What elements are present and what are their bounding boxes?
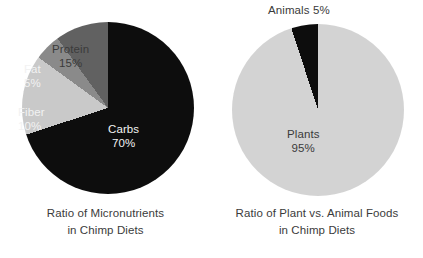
caption-line-1: Ratio of Plant vs. Animal Foods: [211, 205, 423, 222]
slice-name-plants: Plants: [287, 128, 320, 140]
slice-value-carbs: 70%: [108, 137, 139, 151]
slice-value-plants: 95%: [287, 142, 320, 156]
plant-animal-chart-caption: Ratio of Plant vs. Animal Foods in Chimp…: [211, 205, 423, 238]
pie-slice-label-protein: Protein 15%: [52, 43, 89, 70]
micronutrients-chart-panel: Carbs 70% Protein 15% Fat 5% Fiber 10% R…: [0, 0, 211, 258]
pie-slice-label-carbs: Carbs 70%: [108, 123, 139, 150]
slice-name-fiber: Fiber: [18, 106, 45, 118]
pie-slice-label-fat: Fat 5%: [24, 63, 41, 90]
slice-name-carbs: Carbs: [108, 123, 139, 135]
plant-animal-pie: [232, 24, 404, 196]
caption-line-1: Ratio of Micronutrients: [0, 205, 211, 222]
caption-line-2: in Chimp Diets: [0, 222, 211, 239]
slice-name-fat: Fat: [24, 63, 41, 75]
slice-value-protein: 15%: [52, 57, 89, 71]
slice-name-protein: Protein: [52, 43, 89, 55]
slice-text-animals: Animals 5%: [268, 4, 330, 16]
micronutrients-pie: [22, 22, 194, 194]
micronutrients-chart-caption: Ratio of Micronutrients in Chimp Diets: [0, 205, 211, 238]
caption-line-2: in Chimp Diets: [211, 222, 423, 239]
plant-animal-chart-panel: Animals 5% Plants 95% Ratio of Plant vs.…: [211, 0, 423, 258]
pie-chart-figure: Carbs 70% Protein 15% Fat 5% Fiber 10% R…: [0, 0, 423, 258]
slice-value-fat: 5%: [24, 77, 41, 91]
pie-slice-label-fiber: Fiber 10%: [18, 106, 45, 133]
pie-slice-label-plants: Plants 95%: [287, 128, 320, 155]
slice-value-fiber: 10%: [18, 120, 45, 134]
pie-slice-label-animals: Animals 5%: [268, 4, 330, 18]
